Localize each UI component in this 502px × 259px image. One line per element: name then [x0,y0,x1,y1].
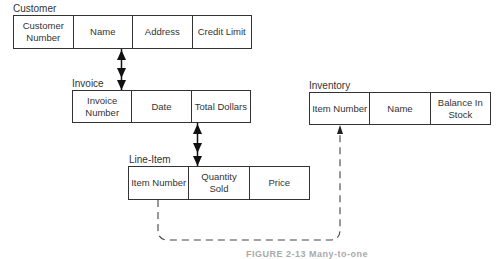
invoice-line-item-arrow-icon [193,123,202,166]
customer-invoice-arrow-icon [117,49,126,90]
figure-caption: FIGURE 2-13 Many-to-one [246,249,368,259]
line-item-inventory-dashed-arrow-icon [158,125,343,240]
